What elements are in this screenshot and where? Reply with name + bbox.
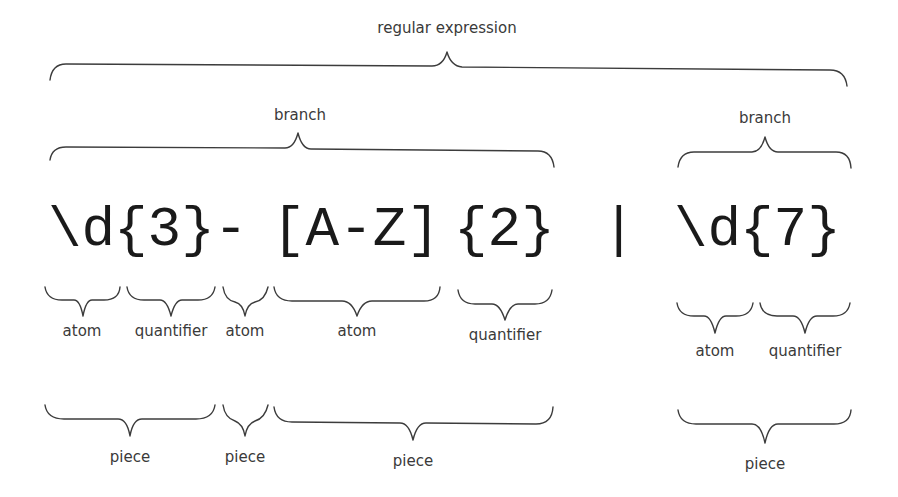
token-quantifier-7: {7}: [740, 198, 841, 262]
quantifier-brace-2: [458, 290, 552, 320]
branch-brace-left: [50, 133, 554, 167]
piece-brace-1: [45, 405, 215, 436]
token-quantifier-2: {2}: [454, 198, 555, 262]
token-digit-class-1: \d: [48, 198, 115, 262]
piece-brace-3: [274, 407, 553, 440]
token-digit-class-2: \d: [674, 198, 741, 262]
atom-brace-1: [45, 287, 120, 316]
atom-brace-2: [223, 287, 268, 316]
regex-code: \d {3} - [A-Z] {2} | \d {7}: [48, 198, 841, 262]
regex-structure-diagram: regular expression branch branch \d {3} …: [0, 0, 898, 497]
regular-expression-label: regular expression: [377, 19, 516, 37]
piece-label-3: piece: [393, 452, 433, 470]
piece-label-1: piece: [110, 448, 150, 466]
token-hyphen: -: [214, 198, 248, 262]
token-quantifier-3: {3}: [114, 198, 215, 262]
atom-label-3: atom: [338, 322, 377, 340]
piece-label-2: piece: [225, 448, 265, 466]
token-char-class-a-z: [A-Z]: [272, 198, 440, 262]
token-alternation-pipe: |: [602, 198, 636, 262]
branch-label-right: branch: [739, 109, 791, 127]
atom-brace-4: [677, 303, 753, 333]
atom-label-4: atom: [696, 342, 735, 360]
quantifier-label-1: quantifier: [135, 322, 208, 340]
regular-expression-brace: [50, 52, 847, 86]
piece-brace-4: [678, 410, 851, 443]
quantifier-label-2: quantifier: [469, 326, 542, 344]
piece-brace-2: [223, 405, 268, 436]
branch-label-left: branch: [274, 106, 326, 124]
branch-brace-right: [678, 137, 851, 168]
atom-brace-3: [274, 287, 440, 316]
quantifier-label-3: quantifier: [769, 342, 842, 360]
quantifier-brace-3: [760, 303, 850, 333]
atom-label-2: atom: [226, 322, 265, 340]
quantifier-brace-1: [127, 287, 215, 316]
atom-label-1: atom: [63, 322, 102, 340]
piece-label-4: piece: [745, 455, 785, 473]
